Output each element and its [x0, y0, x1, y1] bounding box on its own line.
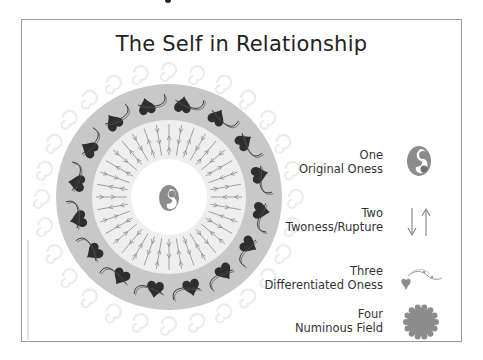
legend-number: One [299, 148, 383, 162]
legend-item-one: One Original Oness [299, 148, 383, 176]
legend-item-two: Two Twoness/Rupture [286, 206, 383, 234]
mother-child-icon [405, 144, 433, 178]
legend-item-three: Three Differentiated Oness [264, 264, 383, 292]
heart-vine-icon [400, 266, 444, 294]
diagram-frame: The Self in Relationship One Original On… [21, 19, 462, 342]
legend-label: Twoness/Rupture [286, 220, 383, 234]
legend-number: Four [295, 307, 383, 321]
legend-number: Three [264, 264, 383, 278]
scalloped-circle-icon [402, 303, 440, 341]
legend-number: Two [286, 206, 383, 220]
legend-item-four: Four Numinous Field [295, 307, 383, 335]
cropped-text-fragment [165, 0, 171, 3]
up-down-arrows-icon [404, 206, 434, 238]
center-mother-child-icon [159, 185, 179, 211]
legend-label: Differentiated Oness [264, 278, 383, 292]
copyright-vertical-text [24, 240, 32, 340]
relationship-diagram [22, 20, 463, 343]
legend-label: Numinous Field [295, 321, 383, 335]
legend-label: Original Oness [299, 162, 383, 176]
